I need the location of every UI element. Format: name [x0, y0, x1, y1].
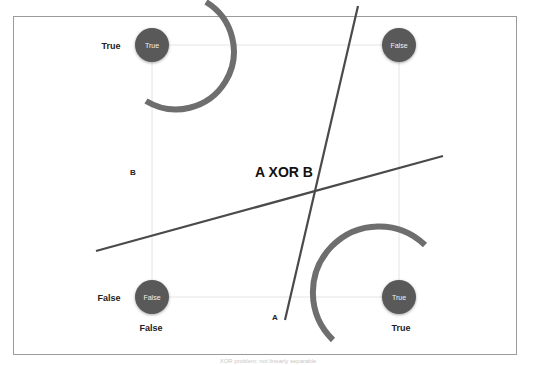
axis-label-b: B	[130, 168, 136, 177]
row-label-true: True	[101, 41, 120, 51]
axis-label-a: A	[272, 313, 278, 322]
decision-line-steep	[285, 6, 358, 320]
node-label: True	[392, 294, 406, 301]
row-label-false: False	[97, 293, 120, 303]
column-label-true: True	[391, 323, 410, 333]
column-label-false: False	[139, 323, 162, 333]
node-false-false: False	[135, 280, 169, 314]
node-false-true: True	[382, 280, 416, 314]
node-label: False	[390, 42, 407, 49]
diagram-title: A XOR B	[255, 164, 313, 180]
node-true-true: True	[135, 28, 169, 62]
node-label: False	[143, 294, 160, 301]
caption: XOR problem: not linearly separable	[220, 358, 317, 364]
node-label: True	[145, 42, 159, 49]
node-true-false: False	[382, 28, 416, 62]
diagram-canvas	[0, 0, 536, 365]
